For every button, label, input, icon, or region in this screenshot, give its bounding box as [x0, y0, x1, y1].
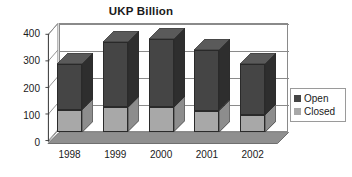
x-tick-label-2002: 2002	[233, 149, 273, 160]
bar-front-2000-open	[149, 39, 174, 107]
bar-front-2001-closed	[194, 111, 219, 132]
bar-2001[interactable]	[194, 23, 230, 143]
bar-top-2000	[149, 28, 185, 40]
bar-1998[interactable]	[57, 23, 93, 143]
legend-item-open: Open	[294, 92, 342, 105]
bar-front-1999-closed	[103, 107, 128, 132]
bar-2002[interactable]	[240, 23, 276, 143]
legend-label-open: Open	[304, 93, 328, 104]
chart-container: UKP Billion	[0, 0, 352, 177]
bar-front-2001-open	[194, 50, 219, 110]
bar-top-2002	[240, 53, 276, 65]
bar-1999[interactable]	[103, 23, 139, 143]
legend-item-closed: Closed	[294, 105, 342, 118]
bar-front-1999-open	[103, 42, 128, 107]
legend-swatch-closed	[294, 108, 301, 115]
bar-front-1998-closed	[57, 110, 82, 132]
bar-top-1998	[57, 53, 93, 65]
chart-legend: Open Closed	[290, 88, 346, 122]
x-tick-label-2001: 2001	[187, 149, 227, 160]
bar-front-2000-closed	[149, 107, 174, 132]
bar-front-2002-open	[240, 64, 265, 115]
bar-top-2001	[194, 39, 230, 51]
bar-front-1998-open	[57, 64, 82, 110]
legend-label-closed: Closed	[304, 106, 335, 117]
x-tick-label-1999: 1999	[95, 149, 135, 160]
bar-top-1999	[103, 31, 139, 43]
x-tick-label-1998: 1998	[50, 149, 90, 160]
x-tick-label-2000: 2000	[141, 149, 181, 160]
plot-area	[48, 34, 277, 143]
bar-2000[interactable]	[149, 23, 185, 143]
bar-front-2002-closed	[240, 115, 265, 132]
legend-swatch-open	[294, 95, 301, 102]
